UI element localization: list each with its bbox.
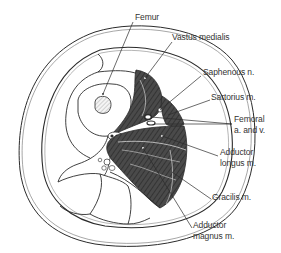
label-femur-text: Femur (135, 12, 159, 23)
label-adductor-longus-line1: Adductor (220, 147, 256, 158)
small-vessel-2 (102, 166, 106, 170)
leader-femoral-artery (151, 117, 232, 124)
label-gracilis: Gracilis m. (212, 192, 251, 203)
label-adductor-longus: Adductor longus m. (220, 147, 256, 169)
leader-femur (103, 22, 133, 94)
vastus-medialis-muscle (110, 70, 162, 136)
label-femur: Femur (135, 12, 159, 23)
label-sartorius-text: Sartorius m. (211, 92, 256, 103)
label-adductor-longus-line2: longus m. (220, 158, 256, 169)
small-vessel-3 (109, 166, 115, 171)
femoral-artery (145, 115, 152, 120)
label-gracilis-text: Gracilis m. (212, 192, 251, 203)
hamstring-compartment-2 (100, 174, 131, 224)
label-adductor-magnus: Adductor magnus m. (193, 220, 234, 242)
label-adductor-magnus-line1: Adductor (193, 220, 234, 231)
sciatic-nerve (104, 159, 110, 165)
adductor-muscle-mass (107, 126, 187, 208)
label-femoral-vessels: Femoral a. and v. (234, 114, 265, 136)
leader-saphenous (160, 76, 201, 110)
femoral-vein (147, 121, 155, 125)
label-adductor-magnus-line2: magnus m. (193, 231, 234, 242)
hamstring-compartment-3 (90, 214, 150, 224)
rectus-femoris-outline (98, 71, 138, 74)
small-vessel-1 (98, 158, 102, 162)
femur-bone (95, 96, 111, 113)
label-femoral-line1: Femoral (234, 114, 265, 125)
label-femoral-line2: a. and v. (234, 125, 265, 136)
label-vastus-medialis: Vastus medialis (172, 32, 229, 43)
sartorius-muscle (161, 96, 184, 127)
label-saphenous-nerve-text: Saphenous n. (203, 67, 254, 78)
label-saphenous-nerve: Saphenous n. (203, 67, 254, 78)
leader-vastus-medialis (145, 42, 172, 78)
label-vastus-medialis-text: Vastus medialis (172, 32, 229, 43)
label-sartorius: Sartorius m. (211, 92, 256, 103)
